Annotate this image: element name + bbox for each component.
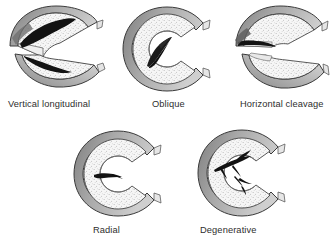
caption-horizontal-cleavage: Horizontal cleavage: [240, 100, 324, 109]
caption-degenerative: Degenerative: [200, 226, 257, 235]
tear-radial: [94, 173, 122, 178]
meniscus-lower-leaf: [242, 53, 324, 88]
meniscus-c-shape: [198, 130, 278, 216]
meniscus-upper-fragment: [10, 6, 97, 57]
meniscal-tear-types-figure: Vertical longitudinal Oblique: [0, 0, 335, 245]
meniscus-lower-fragment: [15, 54, 99, 87]
panel-horizontal-cleavage: [230, 2, 330, 98]
panel-degenerative: [192, 126, 292, 222]
caption-radial: Radial: [93, 226, 120, 235]
meniscus-c-shape: [74, 131, 154, 216]
panel-vertical-longitudinal: [2, 2, 110, 98]
panel-oblique: [118, 4, 216, 96]
meniscus-upper-leaf: [235, 6, 322, 47]
caption-vertical-longitudinal: Vertical longitudinal: [8, 100, 90, 109]
caption-oblique: Oblique: [152, 100, 185, 109]
panel-radial: [68, 128, 168, 222]
meniscus-c-shape: [123, 7, 203, 91]
